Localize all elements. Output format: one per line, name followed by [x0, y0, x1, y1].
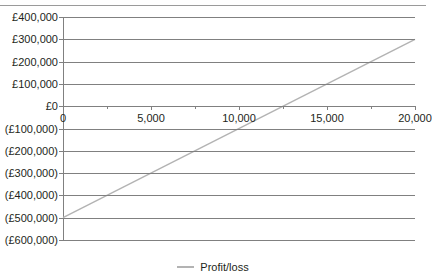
y-axis-tick — [59, 151, 63, 152]
y-axis-tick — [59, 62, 63, 63]
legend-line-swatch — [177, 266, 194, 268]
y-axis-tick — [59, 173, 63, 174]
y-axis-tick — [59, 39, 63, 40]
y-axis-label: £200,000 — [12, 57, 58, 68]
gridline-y — [63, 151, 415, 152]
gridline-y — [63, 195, 415, 196]
plot-area — [63, 17, 415, 240]
y-axis-label: (£300,000) — [5, 168, 58, 179]
gridline-y — [63, 240, 415, 241]
y-axis-tick — [59, 218, 63, 219]
x-axis-line — [63, 106, 415, 107]
y-axis-label: (£600,000) — [5, 235, 58, 246]
gridline-y — [63, 17, 415, 18]
y-axis-label: £400,000 — [12, 12, 58, 23]
x-axis-label: 20,000 — [398, 113, 432, 124]
y-axis-label: £300,000 — [12, 34, 58, 45]
x-axis-label: 15,000 — [310, 113, 344, 124]
y-axis-label: (£200,000) — [5, 146, 58, 157]
y-axis-label: (£100,000) — [5, 124, 58, 135]
y-axis-label: £0 — [46, 101, 58, 112]
y-axis-tick — [59, 129, 63, 130]
gridline-y — [63, 39, 415, 40]
y-axis-label: (£400,000) — [5, 190, 58, 201]
gridline-y — [63, 62, 415, 63]
y-axis-tick — [59, 195, 63, 196]
y-axis-tick — [59, 17, 63, 18]
y-axis-tick — [59, 84, 63, 85]
legend-entry-profit-loss: Profit/loss — [177, 261, 248, 273]
x-axis-label: 10,000 — [222, 113, 256, 124]
x-axis-label: 5,000 — [137, 113, 165, 124]
legend-entry-label: Profit/loss — [200, 261, 248, 273]
gridline-y — [63, 129, 415, 130]
gridline-y — [63, 84, 415, 85]
x-axis-tick — [415, 106, 416, 110]
gridline-y — [63, 173, 415, 174]
gridline-y — [63, 218, 415, 219]
chart-legend: Profit/loss — [0, 258, 426, 273]
y-axis-label: £100,000 — [12, 79, 58, 90]
y-axis-label: (£500,000) — [5, 213, 58, 224]
x-axis-label: 0 — [60, 113, 66, 124]
top-divider-rule — [0, 5, 426, 6]
y-axis-tick — [59, 240, 63, 241]
